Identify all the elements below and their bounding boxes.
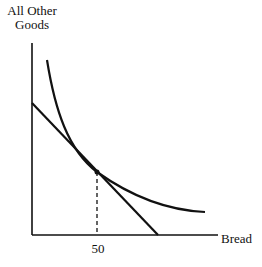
x-axis-label: Bread — [221, 231, 252, 247]
tangency-point — [95, 170, 100, 175]
x-tick-50: 50 — [89, 241, 107, 257]
indifference-curve — [47, 60, 205, 212]
diagram-canvas — [0, 0, 262, 267]
budget-line — [32, 103, 158, 235]
